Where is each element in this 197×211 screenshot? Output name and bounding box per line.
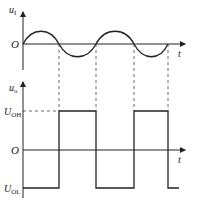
top-y-axis-label: uI bbox=[9, 4, 17, 17]
input-signal-panel: uI O t bbox=[9, 4, 185, 70]
output-signal-panel: uo UOH O UOL t bbox=[4, 82, 185, 198]
top-origin-label: O bbox=[11, 38, 19, 50]
transition-guides bbox=[23, 44, 168, 111]
high-level-label: UOH bbox=[4, 106, 21, 119]
low-level-label: UOL bbox=[4, 183, 21, 196]
bottom-origin-label: O bbox=[11, 144, 19, 156]
bottom-y-axis-label: uo bbox=[9, 82, 18, 95]
top-t-axis-label: t bbox=[178, 48, 181, 59]
bottom-t-axis-label: t bbox=[178, 154, 181, 165]
comparator-waveform-diagram: uI O t uo UOH O UOL t bbox=[0, 0, 197, 211]
